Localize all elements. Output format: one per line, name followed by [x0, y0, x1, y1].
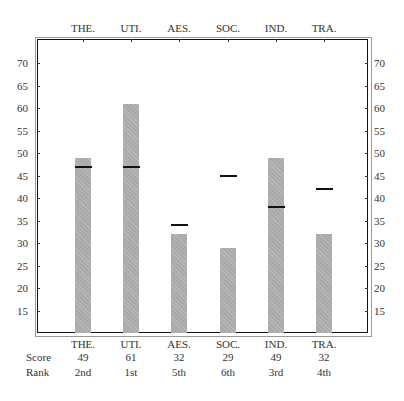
score-value: 61 — [111, 351, 151, 363]
y-tick-right — [365, 131, 368, 132]
norm-marker — [171, 224, 188, 226]
y-tick-label-right: 55 — [374, 125, 385, 137]
y-tick-left — [37, 243, 40, 244]
category-label-bottom: THE. — [63, 338, 103, 350]
y-tick-right — [365, 176, 368, 177]
x-tick-top — [324, 39, 325, 42]
category-label-bottom: SOC. — [208, 338, 248, 350]
y-tick-label-left: 20 — [4, 282, 28, 294]
y-tick-label-left: 35 — [4, 215, 28, 227]
y-tick-right — [365, 243, 368, 244]
y-tick-label-right: 70 — [374, 57, 385, 69]
score-value: 49 — [256, 351, 296, 363]
y-tick-label-right: 35 — [374, 215, 385, 227]
y-tick-label-right: 40 — [374, 192, 385, 204]
rank-value: 6th — [208, 366, 248, 378]
score-row-label: Score — [26, 351, 51, 363]
x-tick-top — [179, 39, 180, 42]
y-tick-label-right: 30 — [374, 237, 385, 249]
y-tick-right — [365, 86, 368, 87]
y-tick-left — [37, 86, 40, 87]
rank-value: 3rd — [256, 366, 296, 378]
score-value: 32 — [304, 351, 344, 363]
y-tick-left — [37, 63, 40, 64]
y-tick-label-left: 55 — [4, 125, 28, 137]
y-tick-left — [37, 288, 40, 289]
y-tick-right — [365, 153, 368, 154]
y-tick-label-right: 45 — [374, 170, 385, 182]
category-label-bottom: IND. — [256, 338, 296, 350]
category-label-top: IND. — [256, 22, 296, 34]
category-label-top: TRA. — [304, 22, 344, 34]
y-tick-left — [37, 176, 40, 177]
y-tick-left — [37, 221, 40, 222]
x-tick-top — [131, 39, 132, 42]
category-label-top: AES. — [159, 22, 199, 34]
y-tick-left — [37, 131, 40, 132]
y-tick-label-left: 70 — [4, 57, 28, 69]
rank-value: 5th — [159, 366, 199, 378]
y-tick-label-left: 40 — [4, 192, 28, 204]
rank-value: 2nd — [63, 366, 103, 378]
score-value: 49 — [63, 351, 103, 363]
y-tick-label-right: 25 — [374, 260, 385, 272]
norm-marker — [316, 188, 333, 190]
category-label-top: THE. — [63, 22, 103, 34]
norm-marker — [123, 166, 140, 168]
score-bar — [171, 234, 187, 333]
score-value: 29 — [208, 351, 248, 363]
norm-marker — [220, 175, 237, 177]
y-tick-label-left: 30 — [4, 237, 28, 249]
y-tick-label-right: 50 — [374, 147, 385, 159]
score-bar — [268, 158, 284, 334]
y-tick-right — [365, 288, 368, 289]
x-tick-top — [228, 39, 229, 42]
rank-value: 4th — [304, 366, 344, 378]
category-label-top: UTI. — [111, 22, 151, 34]
score-bar — [220, 248, 236, 334]
y-tick-right — [365, 221, 368, 222]
x-tick-top — [83, 39, 84, 42]
y-tick-label-left: 50 — [4, 147, 28, 159]
category-label-bottom: AES. — [159, 338, 199, 350]
score-bar — [123, 104, 139, 334]
score-value: 32 — [159, 351, 199, 363]
y-tick-label-right: 15 — [374, 305, 385, 317]
y-tick-label-left: 65 — [4, 80, 28, 92]
rank-value: 1st — [111, 366, 151, 378]
category-label-bottom: TRA. — [304, 338, 344, 350]
score-bar — [316, 234, 332, 333]
y-tick-label-left: 45 — [4, 170, 28, 182]
norm-marker — [75, 166, 92, 168]
y-tick-label-right: 65 — [374, 80, 385, 92]
y-tick-right — [365, 198, 368, 199]
y-tick-left — [37, 198, 40, 199]
y-tick-label-left: 60 — [4, 102, 28, 114]
category-label-top: SOC. — [208, 22, 248, 34]
y-tick-label-right: 60 — [374, 102, 385, 114]
y-tick-label-left: 25 — [4, 260, 28, 272]
y-tick-left — [37, 311, 40, 312]
y-tick-right — [365, 311, 368, 312]
x-tick-top — [276, 39, 277, 42]
category-label-bottom: UTI. — [111, 338, 151, 350]
y-tick-label-left: 15 — [4, 305, 28, 317]
norm-marker — [268, 206, 285, 208]
y-tick-left — [37, 153, 40, 154]
y-tick-label-right: 20 — [374, 282, 385, 294]
y-tick-right — [365, 63, 368, 64]
y-tick-left — [37, 266, 40, 267]
y-tick-right — [365, 108, 368, 109]
y-tick-left — [37, 108, 40, 109]
y-tick-right — [365, 266, 368, 267]
rank-row-label: Rank — [26, 366, 49, 378]
score-bar — [75, 158, 91, 334]
